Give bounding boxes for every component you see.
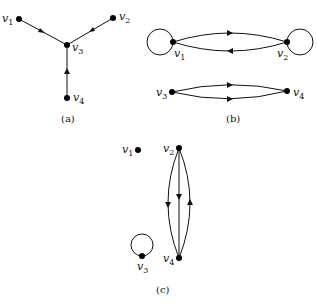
vertex-v1	[16, 16, 22, 22]
vertex-v2	[284, 39, 290, 45]
vertex-v4	[176, 255, 182, 261]
caption-c: (c)	[156, 284, 170, 295]
vertex-v2	[176, 145, 182, 151]
arrow-icon	[227, 30, 233, 36]
vertex-label-v1: v1	[2, 12, 13, 27]
arrow-icon	[227, 48, 233, 54]
arrow-icon	[187, 199, 193, 205]
panel-c: v1 v2 v3 v4 (c)	[122, 142, 193, 295]
arrow-icon	[165, 202, 171, 208]
vertex-label-v2: v2	[163, 142, 174, 157]
arrow-icon	[176, 194, 182, 200]
loop-v1	[147, 29, 173, 55]
loop-v3	[131, 234, 153, 256]
arrow-icon	[89, 27, 95, 32]
arrow-icon	[227, 82, 233, 88]
vertex-label-v2: v2	[119, 10, 130, 25]
vertex-v4	[284, 88, 290, 94]
caption-b: (b)	[226, 113, 240, 124]
vertex-label-v4: v4	[73, 91, 84, 106]
arrow-icon	[64, 68, 70, 74]
panel-b: v1 v2 v3 v4 (b)	[147, 29, 313, 124]
vertex-label-v3: v3	[72, 41, 83, 56]
vertex-label-v2: v2	[277, 47, 288, 62]
arrow-icon	[227, 96, 233, 102]
vertex-v3	[64, 42, 70, 48]
vertex-v3	[139, 253, 145, 259]
vertex-v2	[110, 15, 116, 21]
vertex-label-v1: v1	[174, 47, 185, 62]
arrow-icon	[38, 28, 45, 33]
vertex-v1	[170, 39, 176, 45]
graph-figure: v1 v2 v3 v4 (a) v1 v2 v3 v4 (b)	[0, 0, 317, 304]
loop-v2	[287, 29, 313, 55]
vertex-label-v3: v3	[156, 86, 167, 101]
vertex-label-v1: v1	[122, 143, 133, 158]
vertex-label-v3: v3	[137, 260, 148, 275]
caption-a: (a)	[61, 113, 75, 124]
vertex-v4	[64, 95, 70, 101]
vertex-v1	[135, 147, 141, 153]
vertex-v3	[169, 89, 175, 95]
vertex-label-v4: v4	[293, 86, 304, 101]
vertex-label-v4: v4	[163, 252, 174, 267]
panel-a: v1 v2 v3 v4 (a)	[2, 10, 130, 124]
